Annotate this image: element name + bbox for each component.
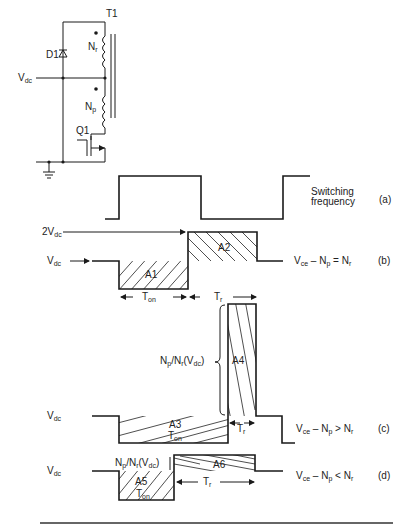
waveform-c [92, 300, 295, 452]
label-np-nr-vdc-step: Np/Nr(Vdc) [115, 457, 159, 470]
tag-d: (d) [378, 470, 390, 481]
label-vdc-c: Vdc [47, 410, 62, 422]
label-d1: D1 [46, 49, 59, 60]
label-a5: A5 [135, 476, 148, 487]
label-vdc-circuit: Vdc [18, 72, 33, 84]
label-nr: Nr [88, 41, 98, 53]
tag-b: (b) [378, 255, 390, 266]
label-vdc-b: Vdc [47, 255, 62, 267]
condition-c: Vce – Np > Nr [296, 423, 354, 436]
label-ton-d: Ton [136, 488, 150, 500]
label-a3: A3 [169, 419, 182, 430]
label-np-nr-vdc-brace: Np/Nr(Vdc) [160, 355, 204, 368]
waveform-a-switching [105, 176, 310, 219]
forward-converter-diagram: T1 D1 Vdc Nr Np Q1 Switching frequency (… [0, 0, 416, 525]
label-ton-c: Ton [168, 430, 182, 442]
label-vdc-d: Vdc [47, 465, 62, 477]
label-a2: A2 [218, 242, 231, 253]
label-frequency: frequency [311, 196, 355, 207]
label-t1: T1 [106, 8, 118, 19]
label-ton-b: Ton [142, 291, 156, 303]
label-tr-c: Tr [237, 423, 246, 435]
label-2vdc: 2Vdc [42, 226, 62, 238]
mosfet-q1-icon [77, 134, 105, 162]
label-a1: A1 [145, 269, 158, 280]
tag-c: (c) [378, 423, 390, 434]
tag-a: (a) [379, 194, 391, 205]
circuit-schematic [36, 22, 115, 178]
label-tr-b: Tr [214, 291, 223, 303]
condition-b: Vce – Np = Nr [294, 255, 352, 268]
label-a4: A4 [232, 355, 245, 366]
area-a4-hatch [215, 300, 265, 440]
ground-icon [43, 162, 55, 178]
condition-d: Vce – Np < Nr [296, 470, 354, 483]
waveform-b [63, 230, 283, 300]
label-tr-d: Tr [203, 476, 212, 488]
label-np: Np [85, 101, 96, 114]
label-q1: Q1 [76, 125, 90, 136]
label-a6: A6 [213, 459, 226, 470]
